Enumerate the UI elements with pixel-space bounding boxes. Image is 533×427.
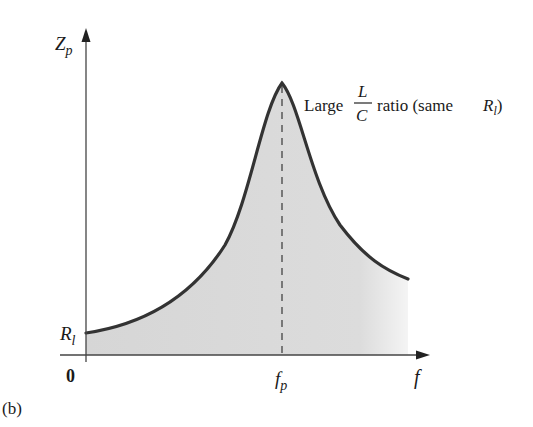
x-tick-label-fp: fp — [275, 368, 287, 393]
svg-text:Large: Large — [304, 96, 343, 115]
x-axis-arrow-icon — [416, 351, 430, 360]
x-axis-label: f — [414, 366, 422, 389]
y-axis-arrow-icon — [82, 28, 91, 42]
origin-label: 0 — [66, 366, 75, 386]
panel-label: (b) — [2, 399, 22, 418]
peak-annotation: Large L C ratio (same Rl) — [304, 82, 502, 125]
resonance-diagram: Zp Rl 0 fp f (b) Large L C ratio (same R… — [0, 0, 533, 427]
baseline-label: Rl — [59, 323, 76, 348]
svg-text:ratio (same: ratio (same — [377, 96, 453, 115]
svg-text:Rl): Rl) — [482, 96, 502, 118]
svg-text:L: L — [357, 82, 367, 101]
svg-text:C: C — [356, 106, 368, 125]
y-axis-label: Zp — [55, 33, 73, 58]
